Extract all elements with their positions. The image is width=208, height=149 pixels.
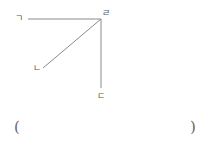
label-nieun: ㄴ: [33, 64, 41, 73]
answer-value[interactable]: [26, 121, 186, 137]
close-paren: ): [190, 120, 196, 135]
open-paren: (: [14, 120, 20, 135]
label-digeut: ㄷ: [97, 92, 105, 101]
label-giyeok: ㄱ: [15, 14, 23, 23]
label-rieul-vertex: ㄹ: [102, 9, 110, 18]
answer-blank[interactable]: ( ): [14, 118, 204, 140]
ray-nieun: [43, 19, 101, 68]
